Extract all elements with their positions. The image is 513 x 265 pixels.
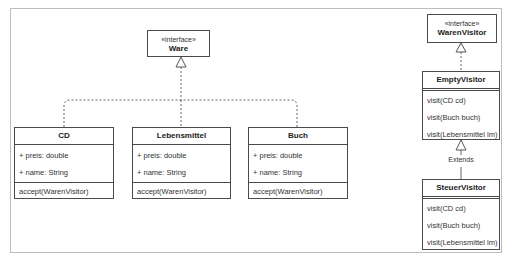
method: visit(CD cd) [423, 200, 499, 217]
stereotype-label: «interface» [428, 19, 496, 28]
class-buch[interactable]: Buch + preis: double + name: String acce… [248, 127, 348, 199]
interface-warenvisitor[interactable]: «interface» WarenVisitor [427, 14, 497, 43]
method: visit(Lebensmittel lm) [423, 234, 499, 251]
class-name: EmptyVisitor [423, 72, 499, 91]
attributes-section: + preis: double + name: String [249, 145, 347, 183]
attributes-section: + preis: double + name: String [15, 145, 113, 183]
interface-name: Ware [148, 44, 209, 54]
class-emptyvisitor[interactable]: EmptyVisitor visit(CD cd) visit(Buch buc… [422, 71, 500, 140]
methods-section: accept(WarenVisitor) [133, 183, 230, 200]
realization-arrow-icon [456, 43, 466, 52]
attribute: + preis: double [133, 147, 230, 164]
attributes-section: + preis: double + name: String [133, 145, 230, 183]
class-cd[interactable]: CD + preis: double + name: String accept… [14, 127, 114, 199]
attribute: + preis: double [249, 147, 347, 164]
class-name: Buch [249, 128, 347, 145]
method: visit(Lebensmittel lm) [423, 126, 499, 143]
method: visit(CD cd) [423, 92, 499, 109]
methods-section: visit(CD cd) visit(Buch buch) visit(Lebe… [423, 91, 499, 143]
interface-name: WarenVisitor [428, 28, 496, 38]
class-name: CD [15, 128, 113, 145]
class-lebensmittel[interactable]: Lebensmittel + preis: double + name: Str… [132, 127, 231, 199]
method: accept(WarenVisitor) [15, 183, 113, 200]
attribute: + name: String [249, 164, 347, 181]
realization-arrow-icon [176, 57, 186, 67]
methods-section: visit(CD cd) visit(Buch buch) visit(Lebe… [423, 199, 499, 251]
method: visit(Buch buch) [423, 217, 499, 234]
attribute: + preis: double [15, 147, 113, 164]
interface-ware[interactable]: «interface» Ware [147, 30, 210, 57]
stereotype-label: «interface» [148, 35, 209, 44]
method: accept(WarenVisitor) [133, 183, 230, 200]
class-name: SteuerVisitor [423, 180, 499, 199]
class-steuervisitor[interactable]: SteuerVisitor visit(CD cd) visit(Buch bu… [422, 179, 500, 250]
methods-section: accept(WarenVisitor) [15, 183, 113, 200]
attribute: + name: String [15, 164, 113, 181]
methods-section: accept(WarenVisitor) [249, 183, 347, 200]
class-name: Lebensmittel [133, 128, 230, 145]
method: accept(WarenVisitor) [249, 183, 347, 200]
attribute: + name: String [133, 164, 230, 181]
extends-label: Extends [441, 156, 481, 163]
method: visit(Buch buch) [423, 109, 499, 126]
